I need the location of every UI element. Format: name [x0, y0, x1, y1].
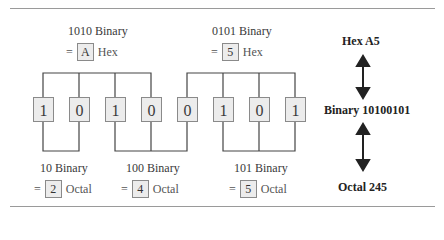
octal-group-2-binary-label: 100 Binary — [126, 161, 180, 176]
double-arrow-icon — [357, 56, 369, 98]
summary-binary: Binary 10100101 — [324, 103, 410, 118]
bit-box: 0 — [69, 97, 90, 122]
octal-group-3-equation: = 5 Octal — [229, 180, 287, 198]
octal-unit: Octal — [153, 182, 179, 197]
octal-bracket-1 — [43, 122, 79, 151]
bit-box: 1 — [213, 97, 234, 122]
summary-hex: Hex A5 — [342, 34, 380, 49]
octal-value-box: 5 — [240, 180, 257, 198]
hex-bracket-1 — [43, 73, 151, 97]
equals-sign: = — [121, 182, 128, 197]
octal-unit: Octal — [261, 182, 287, 197]
octal-unit: Octal — [66, 182, 92, 197]
bit-box: 0 — [141, 97, 162, 122]
equals-sign: = — [34, 182, 41, 197]
octal-group-1-binary-label: 10 Binary — [40, 161, 88, 176]
hex-bracket-2 — [187, 73, 295, 97]
bit-box: 1 — [33, 97, 54, 122]
octal-value-box: 2 — [45, 180, 62, 198]
octal-value-box: 4 — [132, 180, 149, 198]
octal-group-3-binary-label: 101 Binary — [234, 161, 288, 176]
bit-box: 1 — [285, 97, 306, 122]
equals-sign: = — [229, 182, 236, 197]
summary-octal: Octal 245 — [338, 180, 387, 195]
bit-box: 0 — [177, 97, 198, 122]
double-arrow-icon — [357, 124, 369, 170]
bit-box: 1 — [105, 97, 126, 122]
octal-group-2-equation: = 4 Octal — [121, 180, 179, 198]
octal-group-1-equation: = 2 Octal — [34, 180, 92, 198]
bit-box: 0 — [249, 97, 270, 122]
